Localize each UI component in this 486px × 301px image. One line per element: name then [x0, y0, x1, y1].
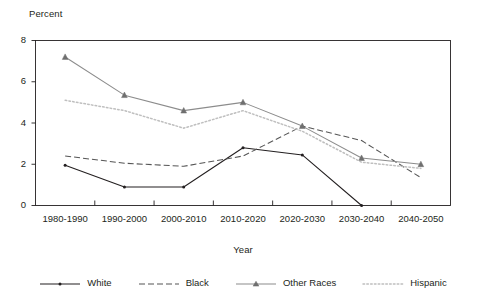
- legend-swatch-icon: [138, 276, 180, 288]
- data-point-marker: [360, 204, 363, 207]
- x-axis-tick-label: 2040-2050: [390, 213, 452, 224]
- series-lines: [62, 54, 423, 207]
- data-point-marker: [182, 185, 185, 188]
- legend-label: Black: [186, 277, 209, 288]
- y-axis-tick-label: 2: [4, 158, 26, 169]
- y-axis-tick-label: 0: [4, 199, 26, 210]
- plot-area: [0, 0, 486, 301]
- legend-swatch-icon: [235, 276, 277, 288]
- legend-item-white[interactable]: White: [39, 276, 111, 288]
- x-axis-tick-label: 2010-2020: [212, 213, 274, 224]
- data-point-marker: [242, 146, 245, 149]
- series-line-white: [65, 148, 361, 206]
- legend-label: Other Races: [283, 277, 336, 288]
- x-axis-title: Year: [0, 244, 486, 255]
- legend-swatch-icon: [39, 276, 81, 288]
- x-axis-tick-label: 1990-2000: [93, 213, 155, 224]
- x-axis-tick-label: 1980-1990: [34, 213, 96, 224]
- legend-item-hispanic[interactable]: Hispanic: [362, 276, 446, 288]
- x-axis-tick-label: 2020-2030: [271, 213, 333, 224]
- legend-item-black[interactable]: Black: [138, 276, 209, 288]
- y-axis-tick-label: 6: [4, 75, 26, 86]
- data-point-marker: [123, 185, 126, 188]
- legend-marker: [59, 283, 62, 286]
- legend-label: Hispanic: [410, 277, 446, 288]
- line-chart: Percent 02468 1980-19901990-20002000-201…: [0, 0, 486, 301]
- y-axis-tick-label: 8: [4, 34, 26, 45]
- legend-swatch-icon: [362, 276, 404, 288]
- x-axis-tick-label: 2000-2010: [153, 213, 215, 224]
- series-line-black: [65, 126, 421, 178]
- data-point-marker: [62, 54, 68, 60]
- axes: [32, 41, 451, 206]
- chart-legend: WhiteBlackOther RacesHispanic: [0, 276, 486, 288]
- data-point-marker: [301, 153, 304, 156]
- y-axis-tick-label: 4: [4, 117, 26, 128]
- data-point-marker: [64, 164, 67, 167]
- legend-label: White: [87, 277, 111, 288]
- plot-frame: [36, 41, 451, 206]
- x-axis-tick-label: 2030-2040: [331, 213, 393, 224]
- data-point-marker: [122, 92, 128, 98]
- data-point-marker: [240, 99, 246, 105]
- data-point-marker: [359, 155, 365, 161]
- legend-item-other-races[interactable]: Other Races: [235, 276, 336, 288]
